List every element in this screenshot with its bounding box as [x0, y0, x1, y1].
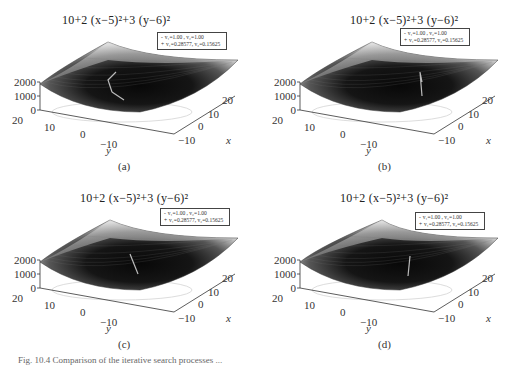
x-tick: 10 [208, 286, 219, 298]
dash-marker-icon: - [161, 34, 163, 40]
subplot-label: (c) [118, 338, 130, 350]
dash-marker-icon: - [404, 30, 406, 36]
y-axis-label: y [106, 322, 111, 334]
x-tick: −10 [178, 134, 195, 146]
x-axis-label: x [486, 312, 491, 324]
legend-entry: +v₁=0.28577, v₂=0.15625 [419, 221, 480, 228]
y-tick: 20 [272, 114, 283, 126]
legend-label: v₁=1.00 , v₂=1.00 [408, 30, 447, 36]
x-tick: 20 [222, 94, 233, 106]
z-tick: 0 [31, 282, 37, 294]
x-axis-label: x [226, 312, 231, 324]
legend-entry: +v₁=0.28577, v₂=0.15625 [161, 41, 222, 48]
legend-entry: +v₁=0.28577, v₂=0.15625 [164, 217, 225, 224]
y-tick: 20 [272, 292, 283, 304]
x-tick: 0 [458, 120, 464, 132]
subplot-label: (b) [378, 160, 391, 172]
z-tick: 0 [291, 104, 297, 116]
subplot-label: (d) [378, 338, 391, 350]
y-tick: 20 [12, 114, 23, 126]
z-tick: 0 [291, 282, 297, 294]
x-tick: 0 [198, 298, 204, 310]
plus-marker-icon: + [164, 217, 167, 223]
panel-a: 10+2 (x−5)²+3 (y−6)²-v₁=1.00 , v₂=1.00+v… [0, 0, 259, 178]
legend-entry: -v₁=1.00 , v₂=1.00 [161, 34, 222, 41]
x-tick: 0 [198, 120, 204, 132]
z-tick: 0 [31, 104, 37, 116]
subplot-label: (a) [118, 160, 130, 172]
y-axis-label: y [106, 144, 111, 156]
z-tick: 2000 [274, 76, 296, 88]
y-tick: 10 [44, 299, 55, 311]
x-axis-label: x [226, 134, 231, 146]
legend-entry: -v₁=1.00 , v₂=1.00 [404, 30, 465, 37]
x-tick: 20 [482, 94, 493, 106]
z-tick: 1000 [274, 268, 296, 280]
y-tick: 10 [304, 299, 315, 311]
plot-title: 10+2 (x−5)²+3 (y−6)² [80, 191, 188, 206]
panel-c: 10+2 (x−5)²+3 (y−6)²-v₁=1.00 , v₂=1.00+v… [0, 178, 259, 356]
legend: -v₁=1.00 , v₂=1.00+v₁=0.28577, v₂=0.1562… [157, 32, 227, 50]
z-tick: 2000 [274, 254, 296, 266]
legend-label: v₁=0.28577, v₂=0.15625 [424, 221, 478, 227]
legend-label: v₁=0.28577, v₂=0.15625 [409, 37, 463, 43]
x-tick: −10 [178, 312, 195, 324]
legend-label: v₁=0.28577, v₂=0.15625 [166, 41, 220, 47]
legend-entry: -v₁=1.00 , v₂=1.00 [419, 214, 480, 221]
x-tick: −10 [438, 312, 455, 324]
z-tick: 2000 [14, 254, 36, 266]
x-tick: 20 [482, 272, 493, 284]
panel-d: 10+2 (x−5)²+3 (y−6)²-v₁=1.00 , v₂=1.00+v… [260, 178, 519, 356]
y-tick: 20 [12, 292, 23, 304]
x-tick: −10 [438, 134, 455, 146]
y-tick: 10 [44, 121, 55, 133]
legend-entry: -v₁=1.00 , v₂=1.00 [164, 210, 225, 217]
plot-title: 10+2 (x−5)²+3 (y−6)² [62, 13, 170, 28]
legend: -v₁=1.00 , v₂=1.00+v₁=0.28577, v₂=0.1562… [400, 28, 470, 46]
x-tick: 10 [208, 108, 219, 120]
legend: -v₁=1.00 , v₂=1.00+v₁=0.28577, v₂=0.1562… [160, 208, 230, 226]
legend-label: v₁=1.00 , v₂=1.00 [168, 210, 207, 216]
z-tick: 2000 [14, 76, 36, 88]
plus-marker-icon: + [404, 37, 407, 43]
y-tick: 0 [80, 128, 86, 140]
dash-marker-icon: - [164, 210, 166, 216]
y-tick: 10 [304, 121, 315, 133]
legend-label: v₁=1.00 , v₂=1.00 [165, 34, 204, 40]
x-tick: 10 [468, 108, 479, 120]
legend-label: v₁=1.00 , v₂=1.00 [423, 214, 462, 220]
plot-title: 10+2 (x−5)²+3 (y−6)² [340, 191, 448, 206]
z-tick: 1000 [14, 90, 36, 102]
z-tick: 1000 [274, 90, 296, 102]
x-tick: 10 [468, 286, 479, 298]
y-tick: 0 [340, 128, 346, 140]
y-tick: 0 [80, 306, 86, 318]
y-axis-label: y [366, 322, 371, 334]
z-tick: 1000 [14, 268, 36, 280]
y-tick: 0 [340, 306, 346, 318]
x-tick: 20 [222, 272, 233, 284]
panel-b: 10+2 (x−5)²+3 (y−6)²-v₁=1.00 , v₂=1.00+v… [260, 0, 519, 178]
figure-caption: Fig. 10.4 Comparison of the iterative se… [18, 355, 222, 365]
plus-marker-icon: + [419, 221, 422, 227]
plus-marker-icon: + [161, 41, 164, 47]
y-axis-label: y [366, 144, 371, 156]
plot-title: 10+2 (x−5)²+3 (y−6)² [350, 13, 458, 28]
x-axis-label: x [486, 134, 491, 146]
legend-label: v₁=0.28577, v₂=0.15625 [169, 217, 223, 223]
x-tick: 0 [458, 298, 464, 310]
legend: -v₁=1.00 , v₂=1.00+v₁=0.28577, v₂=0.1562… [415, 212, 485, 230]
dash-marker-icon: - [419, 214, 421, 220]
legend-entry: +v₁=0.28577, v₂=0.15625 [404, 37, 465, 44]
